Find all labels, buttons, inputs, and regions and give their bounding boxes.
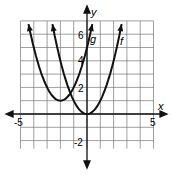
y-tick-neg2: -2 [74, 137, 83, 148]
curve-label-f: f [120, 35, 124, 47]
coordinate-plane: x y -5 5 6 4 2 -2 g f [0, 0, 172, 175]
x-axis-label: x [157, 100, 164, 112]
y-tick-6: 6 [78, 30, 84, 41]
y-tick-2: 2 [78, 83, 84, 94]
y-tick-4: 4 [78, 55, 84, 66]
curve-label-g: g [90, 33, 97, 45]
x-tick-min: -5 [14, 117, 23, 128]
y-axis-label: y [90, 6, 98, 18]
x-tick-max: 5 [150, 117, 156, 128]
